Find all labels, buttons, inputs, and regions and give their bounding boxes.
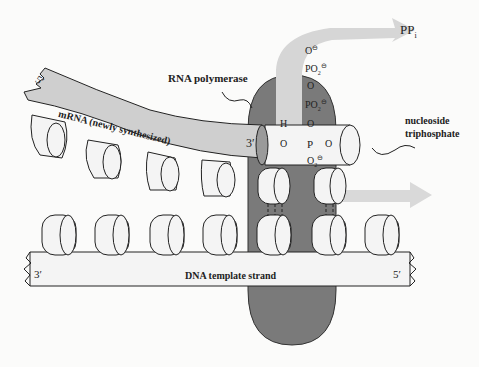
dna-bases (42, 215, 399, 255)
chem-o-top: O⊖ (305, 44, 318, 56)
chem-o-right: O (325, 138, 332, 149)
ppi-release-arrow (276, 18, 415, 130)
chem-o-link: O (307, 118, 314, 129)
chem-po2-2: PO2⊖ (305, 98, 327, 112)
ppi-label: PPi (400, 22, 417, 40)
polymerase-pointer (222, 92, 252, 108)
chem-p: P (307, 138, 313, 150)
transcription-diagram (0, 0, 479, 367)
dna-3prime-label: 3′ (34, 268, 42, 280)
direction-arrow (340, 182, 432, 208)
nucleoside-triphosphate-label-2: triphosphate (405, 128, 459, 139)
rna-polymerase-label: RNA polymerase (168, 72, 248, 84)
chem-h: H (280, 118, 287, 129)
chem-o-mid: O (307, 80, 314, 91)
chem-po2-1: PO2⊖ (305, 62, 327, 76)
chem-o2-bottom: O2⊖ (307, 154, 323, 168)
dna-template-label: DNA template strand (185, 270, 276, 281)
dna-5prime-label: 5′ (393, 268, 401, 280)
nucleoside-triphosphate-label-1: nucleoside (405, 115, 449, 126)
chem-o-3prime: O (280, 138, 287, 149)
mrna-3prime-label: 3′ (246, 136, 255, 151)
